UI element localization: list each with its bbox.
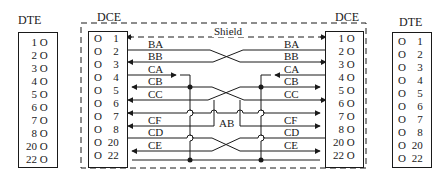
pin-number: 8 — [105, 124, 119, 135]
signal-label-right-ce: CE — [284, 140, 298, 151]
pin-number: 22 — [105, 150, 119, 161]
signal-label-right-ca: CA — [284, 64, 299, 75]
pin-contact: O — [347, 123, 355, 135]
pin-number: 3 — [23, 63, 37, 74]
pin-number: 1 — [105, 33, 119, 44]
pin-number: 22 — [330, 150, 344, 161]
pin-contact: O — [94, 45, 102, 57]
pin-number: 7 — [409, 114, 423, 125]
left-dte-connector: 1 O 2 O 3 O 4 O 5 O 6 O 7 O 8 O 20 O 22 … — [18, 32, 58, 168]
pin-contact: O — [40, 114, 48, 126]
left-dce-connector: O 1 O 2 O 3 O 4 O 5 O 6 O 7 O 8 O 20 O 2… — [88, 31, 128, 168]
pin-contact: O — [94, 149, 102, 161]
junction-dot — [188, 85, 193, 90]
pin-contact: O — [398, 87, 406, 99]
pin-number: 20 — [23, 141, 37, 152]
pin-number: 8 — [330, 124, 344, 135]
pin-contact: O — [94, 110, 102, 122]
signal-label-left-cd: CD — [148, 127, 163, 138]
pin-number: 7 — [105, 111, 119, 122]
pin-number: 2 — [105, 46, 119, 57]
pin-number: 5 — [105, 85, 119, 96]
shield-label: Shield — [212, 26, 244, 37]
pin-number: 1 — [23, 37, 37, 48]
pin-contact: O — [94, 84, 102, 96]
pin-number: 22 — [23, 154, 37, 165]
signal-label-left-cc: CC — [148, 89, 163, 100]
pin-number: 22 — [409, 153, 423, 164]
pin-number: 5 — [330, 85, 344, 96]
signal-label-right-ba: BA — [284, 39, 299, 50]
signal-label-left-ca: CA — [148, 64, 163, 75]
pin-contact: O — [40, 75, 48, 87]
signal-label-left-cf: CF — [148, 115, 161, 126]
pin-contact: O — [40, 153, 48, 165]
pin-number: 6 — [105, 98, 119, 109]
pin-number: 2 — [409, 49, 423, 60]
pin-contact: O — [347, 97, 355, 109]
signal-label-right-cb: CB — [284, 76, 299, 87]
pin-contact: O — [40, 49, 48, 61]
signal-label-right-cd: CD — [284, 127, 299, 138]
pin-number: 1 — [330, 33, 344, 44]
pin-number: 6 — [23, 102, 37, 113]
pin-number: 3 — [409, 62, 423, 73]
pin-number: 6 — [409, 101, 423, 112]
pin-number: 20 — [330, 137, 344, 148]
pin-contact: O — [94, 136, 102, 148]
signal-label-left-ce: CE — [148, 140, 162, 151]
pin-number: 7 — [23, 115, 37, 126]
pin-contact: O — [398, 126, 406, 138]
signal-label-left-bb: BB — [148, 51, 163, 62]
pin-contact: O — [347, 58, 355, 70]
pin-contact: O — [398, 152, 406, 164]
pin-contact: O — [40, 62, 48, 74]
ground-label-ab: AB — [219, 118, 234, 129]
pin-contact: O — [398, 35, 406, 47]
pin-number: 1 — [409, 36, 423, 47]
pin-number: 4 — [330, 72, 344, 83]
pin-number: 4 — [105, 72, 119, 83]
pin-contact: O — [40, 88, 48, 100]
right-dce-connector: 1 O 2 O 3 O 4 O 5 O 6 O 7 O 8 O 20 O 22 … — [325, 31, 364, 168]
pin-contact: O — [94, 123, 102, 135]
pin-contact: O — [40, 127, 48, 139]
pin-contact: O — [398, 139, 406, 151]
junction-dot — [259, 85, 264, 90]
pin-number: 3 — [330, 59, 344, 70]
pin-contact: O — [94, 71, 102, 83]
pin-contact: O — [40, 36, 48, 48]
pin-number: 5 — [409, 88, 423, 99]
pin-number: 20 — [409, 140, 423, 151]
pin-contact: O — [347, 136, 355, 148]
signal-label-right-bb: BB — [284, 51, 299, 62]
pin-contact: O — [347, 84, 355, 96]
pin-contact: O — [347, 110, 355, 122]
pin-number: 7 — [330, 111, 344, 122]
pin-number: 4 — [23, 76, 37, 87]
pin-contact: O — [94, 32, 102, 44]
pin-contact: O — [94, 97, 102, 109]
pin-number: 8 — [409, 127, 423, 138]
pin-contact: O — [398, 48, 406, 60]
pin-contact: O — [40, 101, 48, 113]
pin-contact: O — [347, 149, 355, 161]
pin-contact: O — [398, 100, 406, 112]
pin-number: 2 — [330, 46, 344, 57]
pin-number: 5 — [23, 89, 37, 100]
pin-number: 8 — [23, 128, 37, 139]
signal-label-right-cf: CF — [284, 115, 297, 126]
pin-contact: O — [398, 74, 406, 86]
signal-label-left-cb: CB — [148, 76, 163, 87]
pin-contact: O — [347, 71, 355, 83]
pin-contact: O — [347, 32, 355, 44]
signal-label-left-ba: BA — [148, 39, 163, 50]
pin-number: 3 — [105, 59, 119, 70]
pin-contact: O — [40, 140, 48, 152]
pin-contact: O — [398, 61, 406, 73]
right-dte-connector: O 1 O 2 O 3 O 4 O 5 O 6 O 7 O 8 O 20 O 2… — [392, 32, 432, 168]
pin-number: 6 — [330, 98, 344, 109]
pin-contact: O — [398, 113, 406, 125]
pin-number: 20 — [105, 137, 119, 148]
pin-contact: O — [94, 58, 102, 70]
